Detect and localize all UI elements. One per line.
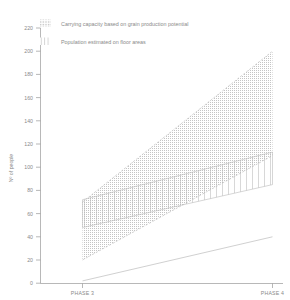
legend-item-carrying-capacity[interactable]: Carrying capacity based on grain product… — [40, 20, 188, 28]
x-axis: PHASE 3 PHASE 4 — [41, 284, 285, 297]
population-carrying-capacity-chart: 220 200 180 160 140 120 100 80 60 40 20 … — [0, 0, 290, 300]
y-axis-tick-labels: 220 200 180 160 140 120 100 80 60 40 20 … — [24, 25, 33, 286]
chart-legend: Carrying capacity based on grain product… — [40, 20, 188, 46]
y-tick-label: 80 — [27, 187, 33, 193]
legend-item-population[interactable]: Population estimated on floor areas — [40, 38, 146, 46]
y-tick-label: 20 — [27, 257, 33, 263]
x-axis-label-phase3: PHASE 3 — [71, 290, 94, 296]
y-axis-ticks — [36, 28, 41, 283]
y-tick-label: 120 — [24, 141, 33, 147]
y-axis: 220 200 180 160 140 120 100 80 60 40 20 … — [8, 25, 41, 286]
y-tick-label: 160 — [24, 95, 33, 101]
y-tick-label: 100 — [24, 164, 33, 170]
x-axis-label-phase4: PHASE 4 — [261, 290, 284, 296]
legend-label-population: Population estimated on floor areas — [61, 39, 146, 45]
plot-area — [83, 51, 273, 281]
series-carrying-capacity-band — [83, 51, 273, 260]
y-tick-label: 200 — [24, 48, 33, 54]
vertical-lines-swatch-icon — [40, 38, 51, 46]
y-tick-label: 220 — [24, 25, 33, 31]
y-axis-title: Nº of people — [8, 154, 14, 183]
y-tick-label: 140 — [24, 118, 33, 124]
y-tick-label: 0 — [30, 280, 33, 286]
y-tick-label: 60 — [27, 211, 33, 217]
carrying-capacity-area — [83, 51, 273, 260]
chart-container: 220 200 180 160 140 120 100 80 60 40 20 … — [0, 0, 290, 300]
y-tick-label: 180 — [24, 71, 33, 77]
legend-label-carrying-capacity: Carrying capacity based on grain product… — [61, 21, 188, 27]
dotted-swatch-icon — [40, 20, 51, 28]
y-tick-label: 40 — [27, 234, 33, 240]
